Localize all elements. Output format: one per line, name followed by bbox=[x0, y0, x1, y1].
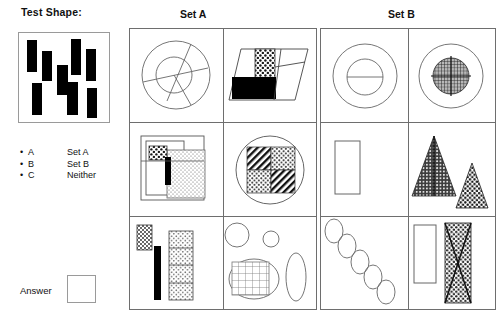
test-shape-box bbox=[18, 32, 110, 123]
set-a-cell-concentric-circles-with-spokes bbox=[130, 29, 223, 122]
legend-key: C bbox=[28, 170, 35, 182]
answer-label: Answer bbox=[20, 285, 52, 296]
set-b-title: Set B bbox=[388, 8, 415, 20]
legend-value: Set B bbox=[67, 159, 89, 171]
test-bar bbox=[42, 51, 52, 81]
set-b-cell-circle-with-bisected-inner-circle bbox=[321, 29, 408, 122]
set-a-cell-circles-ellipses-and-grid-ellipse bbox=[224, 217, 317, 310]
set-a-cell-circle-with-four-patterned-quadrants bbox=[224, 123, 317, 216]
test-shape-title: Test Shape: bbox=[21, 6, 82, 18]
legend-key: A bbox=[28, 147, 34, 159]
set-b-cell-circle-with-crosshatch-inner-disc bbox=[409, 29, 496, 122]
legend-key: B bbox=[28, 159, 34, 171]
set-a-cell-parallelogram-with-black-and-dotted-rectangles bbox=[224, 29, 317, 122]
bullet-icon: • bbox=[20, 159, 23, 171]
set-a-cell-overlapping-textured-rectangles bbox=[130, 123, 223, 216]
test-bar bbox=[87, 88, 97, 118]
set-b-cell-single-empty-rectangle bbox=[321, 123, 408, 216]
bullet-icon: • bbox=[20, 170, 23, 182]
puzzle-page: Test Shape: • A Set A • B Set B • C Neit… bbox=[0, 0, 503, 313]
test-bar bbox=[86, 49, 96, 81]
set-b-cell-two-stippled-triangles bbox=[409, 123, 496, 216]
set-b-panel bbox=[320, 28, 496, 310]
test-bar bbox=[27, 40, 37, 72]
set-a-panel bbox=[129, 28, 317, 310]
legend-value: Set A bbox=[67, 147, 89, 159]
set-b-cell-diagonal-chain-of-ellipses bbox=[321, 217, 408, 310]
test-bar bbox=[71, 39, 81, 75]
legend-value: Neither bbox=[67, 170, 96, 182]
set-a-title: Set A bbox=[180, 8, 206, 20]
set-b-cell-rectangle-and-bowtie-rectangle bbox=[409, 217, 496, 310]
test-bar bbox=[67, 82, 78, 115]
answer-input-box[interactable] bbox=[67, 275, 96, 303]
test-bar bbox=[32, 83, 42, 115]
bullet-icon: • bbox=[20, 147, 23, 159]
set-a-cell-stippled-bars-and-segmented-column bbox=[130, 217, 223, 310]
